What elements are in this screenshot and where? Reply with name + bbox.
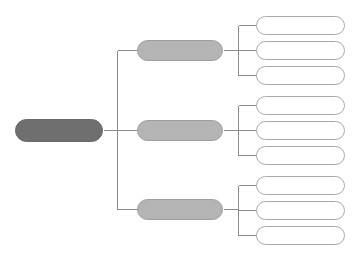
node-leaf-3-2[interactable] xyxy=(256,201,345,220)
node-root[interactable] xyxy=(15,119,103,142)
hierarchy-diagram-canvas xyxy=(0,0,357,259)
node-leaf-1-1[interactable] xyxy=(256,16,345,35)
node-leaf-3-3[interactable] xyxy=(256,226,345,245)
node-leaf-1-2[interactable] xyxy=(256,41,345,60)
node-leaf-3-1[interactable] xyxy=(256,176,345,195)
node-leaf-2-1[interactable] xyxy=(256,96,345,115)
node-leaf-1-3[interactable] xyxy=(256,66,345,85)
node-leaf-2-3[interactable] xyxy=(256,146,345,165)
node-leaf-2-2[interactable] xyxy=(256,121,345,140)
node-branch-1[interactable] xyxy=(137,40,223,61)
node-branch-2[interactable] xyxy=(137,120,223,141)
node-branch-3[interactable] xyxy=(137,199,223,220)
